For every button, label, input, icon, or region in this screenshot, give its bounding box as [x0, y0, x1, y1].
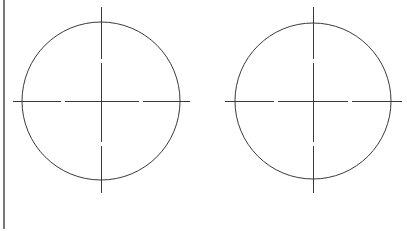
diagram-canvas: [0, 0, 407, 231]
left-circle-group: [13, 7, 190, 193]
right-circle-group: [225, 7, 402, 193]
